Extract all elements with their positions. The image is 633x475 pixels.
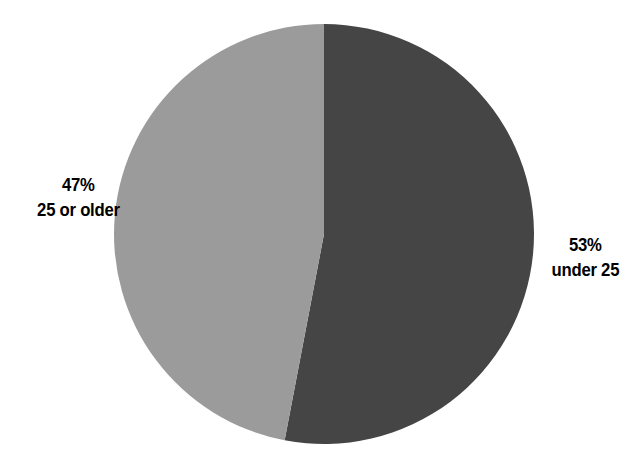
pie-label-percent-left: 47% [17,172,140,197]
pie-chart-figure: 47% 25 or older 53% under 25 [0,0,633,475]
pie-slices [114,24,534,444]
pie-label-under-25: 53% under 25 [548,232,623,282]
pie-chart-canvas [0,0,633,475]
pie-label-category-right: under 25 [548,257,623,282]
pie-label-percent-right: 53% [548,232,623,257]
pie-slice-25-or-older[interactable] [114,24,324,440]
pie-label-25-or-older: 47% 25 or older [17,172,140,222]
pie-label-category-left: 25 or older [17,197,140,222]
